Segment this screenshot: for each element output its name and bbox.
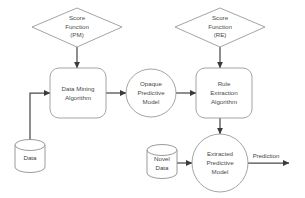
node-novel-data-store[interactable]: Novel Data <box>147 145 177 179</box>
node-score-function-re[interactable]: Score Function (RE) <box>175 8 265 47</box>
score-function-pm-line-3: (PM) <box>70 31 83 38</box>
opaque-predictive-model-line-2: Predictive <box>137 89 165 96</box>
extracted-predictive-model-line-3: Model <box>212 168 229 175</box>
score-function-pm-line-1: Score <box>69 14 86 21</box>
extracted-predictive-model-line-2: Predictive <box>206 159 234 166</box>
prediction-label: Prediction <box>253 153 280 159</box>
node-data-store[interactable]: Data <box>15 140 45 173</box>
data-store-label: Data <box>23 154 37 161</box>
connector-data-to-data-mining <box>30 93 50 140</box>
data-mining-algorithm-line-1: Data Mining <box>61 85 95 92</box>
node-opaque-predictive-model[interactable]: Opaque Predictive Model <box>126 69 176 117</box>
score-function-pm-line-2: Function <box>65 23 89 30</box>
novel-data-store-top <box>147 145 177 156</box>
node-score-function-pm[interactable]: Score Function (PM) <box>32 8 122 47</box>
node-rule-extraction-algorithm[interactable]: Rule Extraction Algorithm <box>196 68 252 118</box>
diagram-canvas: Score Function (PM) Score Function (RE) … <box>0 0 305 198</box>
flowchart-svg: Score Function (PM) Score Function (RE) … <box>0 0 305 198</box>
rule-extraction-algorithm-line-2: Extraction <box>210 89 238 96</box>
novel-data-store-line-1: Novel <box>154 155 170 162</box>
score-function-re-line-3: (RE) <box>214 31 227 38</box>
score-function-re-line-1: Score <box>212 14 229 21</box>
rule-extraction-algorithm-line-1: Rule <box>218 80 231 87</box>
node-extracted-predictive-model[interactable]: Extracted Predictive Model <box>192 134 248 192</box>
extracted-predictive-model-line-1: Extracted <box>207 150 234 157</box>
score-function-re-line-2: Function <box>208 23 232 30</box>
data-store-top <box>15 140 45 151</box>
opaque-predictive-model-line-1: Opaque <box>140 80 163 87</box>
opaque-predictive-model-line-3: Model <box>143 98 160 105</box>
rule-extraction-algorithm-line-3: Algorithm <box>211 98 237 105</box>
data-mining-algorithm-line-2: Algorithm <box>65 94 91 101</box>
node-data-mining-algorithm[interactable]: Data Mining Algorithm <box>50 68 106 118</box>
novel-data-store-line-2: Data <box>155 164 169 171</box>
